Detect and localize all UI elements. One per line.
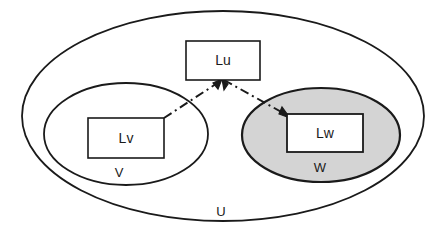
node-box-lu: Lu xyxy=(186,41,260,80)
node-box-lv-label: Lv xyxy=(119,130,134,146)
set-label-u: U xyxy=(216,204,225,219)
set-diagram-canvas: Lu Lv Lw V W U xyxy=(0,0,443,234)
node-box-lw: Lw xyxy=(287,114,363,152)
node-box-lv: Lv xyxy=(88,118,164,158)
node-box-lu-label: Lu xyxy=(215,52,231,68)
set-label-v: V xyxy=(115,165,124,180)
set-label-w: W xyxy=(314,160,327,175)
node-box-lw-label: Lw xyxy=(316,125,335,141)
set-diagram-svg: Lu Lv Lw V W U xyxy=(0,0,443,234)
